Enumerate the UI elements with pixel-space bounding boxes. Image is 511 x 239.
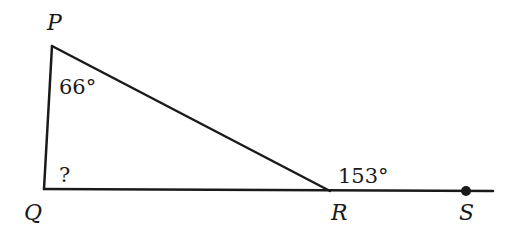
segment-qs	[44, 189, 493, 191]
vertex-label-s: S	[459, 200, 474, 225]
triangle-diagram: P Q R S 66° ? 153°	[0, 0, 511, 239]
angle-label-q: ?	[59, 163, 70, 187]
vertex-label-p: P	[46, 10, 63, 35]
vertex-label-r: R	[330, 200, 348, 225]
point-s	[461, 186, 471, 196]
segment-pq	[44, 46, 52, 189]
angle-label-r-exterior: 153°	[338, 164, 389, 188]
segment-pr	[52, 46, 330, 191]
vertex-label-q: Q	[24, 200, 42, 225]
angle-label-p: 66°	[59, 75, 96, 99]
